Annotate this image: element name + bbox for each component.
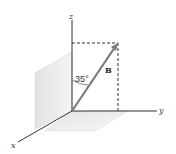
x-axis-label: x bbox=[11, 141, 16, 150]
y-axis-label: y bbox=[158, 106, 164, 115]
z-axis-label: z bbox=[68, 12, 74, 21]
vector-diagram: z y x 35° B bbox=[0, 0, 176, 154]
vector-b-label: B bbox=[105, 65, 112, 75]
angle-label: 35° bbox=[75, 74, 89, 84]
